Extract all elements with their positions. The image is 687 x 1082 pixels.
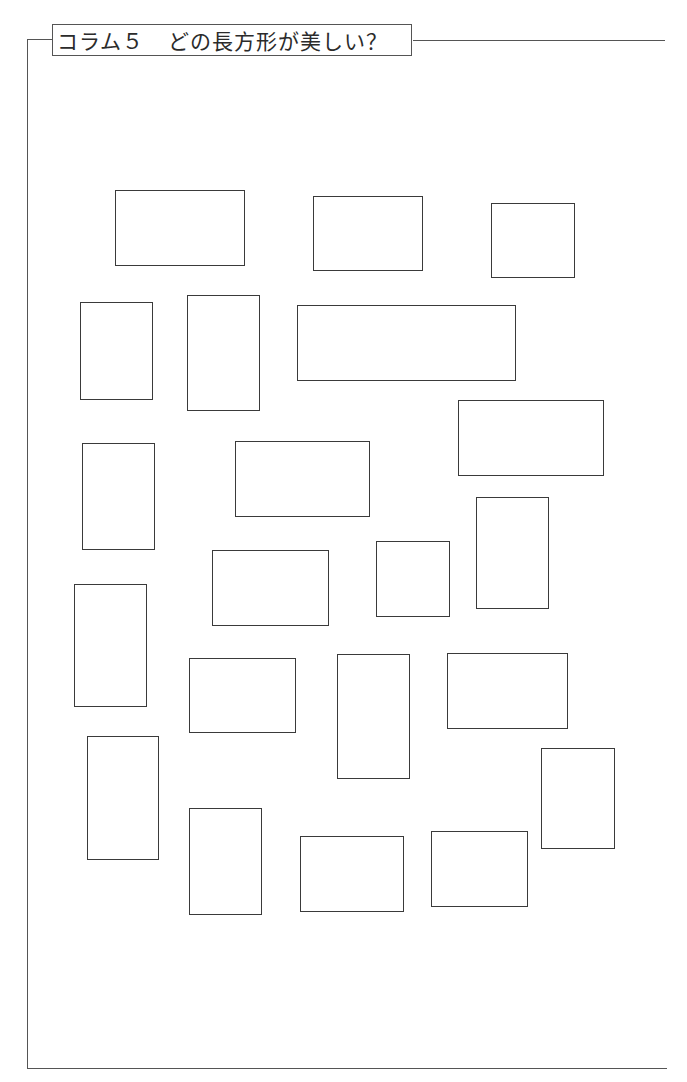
rectangle-17 — [87, 736, 159, 860]
column-title: どの長方形が美しい？ — [168, 25, 388, 55]
rectangle-5 — [187, 295, 260, 411]
rectangle-21 — [541, 748, 615, 849]
rectangle-18 — [189, 808, 262, 915]
rectangle-8 — [82, 443, 155, 550]
rectangle-1 — [115, 190, 245, 266]
column-title-box: コラム５ どの長方形が美しい？ — [52, 24, 412, 56]
rectangle-16 — [447, 653, 568, 729]
rectangle-13 — [74, 584, 147, 707]
rectangle-4 — [80, 302, 153, 400]
rectangle-19 — [300, 836, 404, 912]
frame-border-top-right — [413, 40, 665, 41]
rectangle-12 — [476, 497, 549, 609]
rectangle-7 — [458, 400, 604, 476]
column-label: コラム５ — [57, 25, 144, 55]
rectangle-11 — [376, 541, 450, 617]
frame-border-left — [27, 39, 28, 1068]
rectangle-9 — [235, 441, 370, 517]
frame-border-bottom — [27, 1068, 667, 1069]
rectangle-6 — [297, 305, 516, 381]
rectangle-20 — [431, 831, 528, 907]
rectangle-2 — [313, 196, 423, 271]
rectangle-10 — [212, 550, 329, 626]
rectangle-14 — [189, 658, 296, 733]
rectangle-3 — [491, 203, 575, 278]
rectangle-15 — [337, 654, 410, 779]
frame-border-top-left — [27, 39, 52, 40]
